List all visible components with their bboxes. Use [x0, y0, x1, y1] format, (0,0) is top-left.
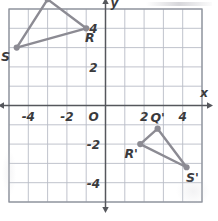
x-tick-label: 4 [178, 110, 187, 124]
vertex-point-R-prime [137, 141, 143, 147]
y-tick-label: -2 [87, 138, 100, 152]
y-tick-label: -4 [87, 177, 100, 191]
vertex-label-S: S [1, 49, 10, 64]
x-tick-label: -4 [22, 110, 35, 124]
origin-label: O [88, 110, 98, 124]
vertex-label-S-prime: S' [186, 170, 199, 185]
x-axis-label: x [199, 86, 209, 100]
x-tick-label: -2 [60, 110, 73, 124]
coordinate-plane-svg: -4-22442-2-4O xy QRSQ'R'S' [0, 0, 218, 221]
x-tick-label: 2 [140, 110, 148, 124]
vertex-point-Q-prime [155, 126, 161, 132]
vertex-label-Q-prime: Q' [150, 110, 164, 125]
vertex-point-S [14, 45, 20, 51]
vertex-label-R: R [85, 30, 95, 45]
y-tick-label: 2 [89, 61, 97, 75]
vertex-label-R-prime: R' [124, 146, 137, 161]
coordinate-plane-figure: -4-22442-2-4O xy QRSQ'R'S' [0, 0, 218, 221]
y-axis-label: y [111, 0, 120, 10]
